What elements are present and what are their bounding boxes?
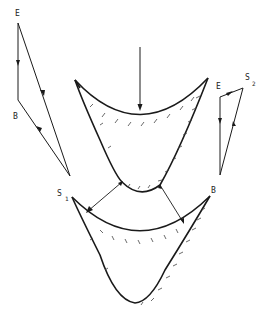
upper-body [75, 78, 208, 192]
label-b-left: B [13, 112, 18, 121]
left-force-polygon: E B [13, 9, 70, 176]
arrow-head-icon [218, 118, 222, 124]
right-force-polygon: E S 2 [216, 73, 256, 175]
lower-body: S 1 B [57, 186, 216, 305]
label-s2-subscript: 2 [252, 80, 256, 87]
label-s2: S [245, 73, 250, 82]
label-e-right: E [216, 82, 221, 91]
label-s1: S [57, 189, 62, 198]
hatching [90, 96, 200, 189]
label-e-left: E [15, 9, 20, 18]
diagram-canvas: E B E S 2 [0, 0, 265, 314]
arrow-head-icon [16, 60, 20, 66]
label-b-lower: B [211, 186, 216, 195]
label-s1-subscript: 1 [65, 195, 69, 202]
load-arrow [138, 47, 143, 111]
contact-force-arrows [86, 181, 184, 224]
arrow-head-icon [226, 91, 233, 96]
